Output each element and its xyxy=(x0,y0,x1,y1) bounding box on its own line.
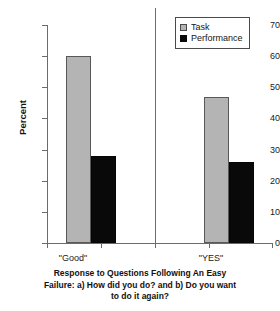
bar-task-yes xyxy=(204,97,229,243)
legend-label-task: Task xyxy=(191,22,210,32)
legend-item-task: Task xyxy=(180,22,243,32)
x-tick-4 xyxy=(272,244,273,248)
x-tick-3 xyxy=(209,244,210,248)
legend-item-performance: Performance xyxy=(180,33,243,43)
caption-line-3: to do it again? xyxy=(6,291,274,303)
x-tick-2 xyxy=(155,244,156,248)
caption-line-1: Response to Questions Following An Easy xyxy=(6,268,274,280)
bar-performance-good xyxy=(91,156,116,243)
legend-label-performance: Performance xyxy=(191,33,243,43)
bar-chart-figure: Percent 70 60 50 40 30 20 10 0 xyxy=(0,0,280,311)
plot-area xyxy=(47,25,272,243)
performance-swatch-icon xyxy=(180,35,187,42)
bar-task-good xyxy=(66,56,91,243)
x-category-label-good: "Good" xyxy=(43,253,103,263)
x-axis-line xyxy=(47,243,273,244)
x-tick-1 xyxy=(101,244,102,248)
y-axis-title: Percent xyxy=(17,88,28,148)
figure-caption: Response to Questions Following An Easy … xyxy=(6,268,274,303)
x-tick-0 xyxy=(47,244,48,248)
chart-legend: Task Performance xyxy=(175,17,250,49)
x-category-label-yes: "YES" xyxy=(181,253,241,263)
bar-performance-yes xyxy=(229,162,254,243)
task-swatch-icon xyxy=(180,24,187,31)
caption-line-2: Failure: a) How did you do? and b) Do yo… xyxy=(6,280,274,292)
